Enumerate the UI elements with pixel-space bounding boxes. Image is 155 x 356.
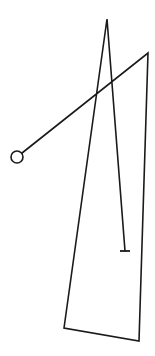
main-polyline — [17, 19, 148, 341]
drawing-canvas — [0, 0, 155, 356]
start-circle-icon — [11, 151, 23, 163]
line-drawing — [0, 0, 155, 356]
